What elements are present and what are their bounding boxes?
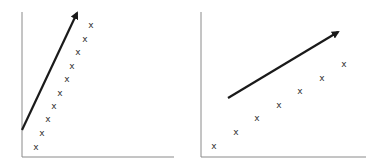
left-scatter-panel: xxxxxxxxxx (22, 12, 174, 157)
axes (22, 12, 174, 157)
x-marker-data-point: x (33, 142, 39, 152)
axes (201, 12, 366, 157)
x-marker-data-point: x (82, 34, 88, 44)
x-marker-data-point: x (319, 73, 325, 83)
x-marker-data-point: x (39, 128, 45, 138)
diagram-canvas: xxxxxxxxxxxxxxxxx (0, 0, 378, 166)
x-marker-data-point: x (297, 86, 303, 96)
x-marker-data-point: x (57, 88, 63, 98)
x-marker-data-point: x (211, 141, 217, 151)
x-marker-data-point: x (276, 100, 282, 110)
x-marker-data-point: x (64, 74, 70, 84)
x-marker-data-point: x (45, 114, 51, 124)
x-marker-data-point: x (341, 59, 347, 69)
x-marker-data-point: x (51, 101, 57, 111)
x-marker-data-point: x (233, 127, 239, 137)
right-scatter-panel: xxxxxxx (201, 12, 366, 157)
direction-arrow-icon (228, 32, 338, 98)
scatter-plots-with-direction-arrows: xxxxxxxxxxxxxxxxx (0, 0, 378, 166)
direction-arrow-icon (22, 13, 77, 130)
x-marker-data-point: x (75, 47, 81, 57)
x-marker-data-point: x (69, 61, 75, 71)
x-marker-data-point: x (88, 20, 94, 30)
x-marker-data-point: x (254, 113, 260, 123)
